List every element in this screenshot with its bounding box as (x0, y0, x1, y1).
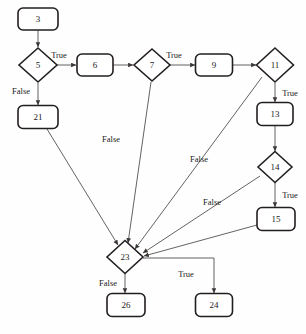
edge-label-n14-to-n23: False (203, 197, 221, 207)
node-label-7: 7 (150, 60, 155, 70)
edge-n15-to-n23 (144, 225, 257, 256)
node-3[interactable]: 3 (18, 8, 58, 30)
edge-label-n5-to-n6: True (51, 50, 67, 60)
node-label-9: 9 (212, 60, 217, 70)
node-21[interactable]: 21 (18, 106, 58, 129)
node-label-24: 24 (210, 300, 220, 310)
node-label-23: 23 (121, 252, 131, 262)
edge-label-n7-to-n9: True (166, 50, 182, 60)
node-label-14: 14 (271, 162, 281, 172)
node-26[interactable]: 26 (107, 294, 145, 317)
edge-label-n5-to-n21: False (12, 86, 30, 96)
node-label-6: 6 (93, 60, 98, 70)
node-label-5: 5 (36, 60, 41, 70)
edge-label-n11-to-n23: False (190, 154, 208, 164)
node-label-21: 21 (34, 112, 43, 122)
node-14[interactable]: 14 (258, 152, 292, 183)
node-label-3: 3 (36, 14, 41, 24)
edge-n21-to-n23 (47, 129, 118, 245)
edge-label-n14-to-n15: True (282, 190, 298, 200)
edge-label-n23-to-n24: True (178, 269, 194, 279)
edge-label-n11-to-n13: True (282, 88, 298, 98)
node-11[interactable]: 11 (257, 48, 294, 82)
node-label-15: 15 (272, 214, 282, 224)
node-6[interactable]: 6 (77, 54, 113, 76)
node-label-13: 13 (271, 109, 281, 119)
node-24[interactable]: 24 (196, 294, 233, 317)
node-label-26: 26 (122, 300, 132, 310)
node-label-11: 11 (271, 60, 280, 70)
node-7[interactable]: 7 (134, 49, 170, 81)
edge-label-n7-to-n23: False (102, 134, 120, 144)
node-15[interactable]: 15 (257, 208, 295, 231)
flowchart-svg: TrueFalseTrueTrueTrueFalseFalseFalseFals… (0, 0, 306, 334)
flowchart-canvas: TrueFalseTrueTrueTrueFalseFalseFalseFals… (0, 0, 306, 334)
node-13[interactable]: 13 (257, 103, 293, 126)
caption-strip (0, 322, 306, 334)
edge-label-n23-to-n26: False (99, 278, 117, 288)
node-9[interactable]: 9 (196, 54, 233, 76)
edge-n7-to-n23 (128, 82, 151, 243)
